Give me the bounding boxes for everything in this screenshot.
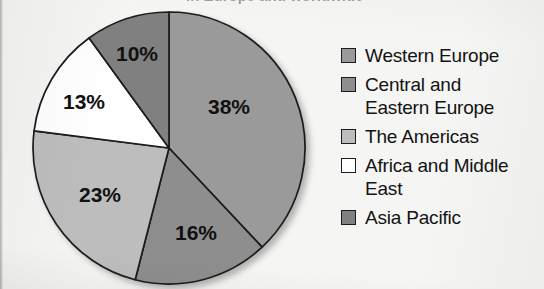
legend-item-label: Western Europe [365, 44, 499, 67]
legend-item-label: Central and Eastern Europe [365, 73, 494, 119]
chart-title-text: in Europe and worldwide [186, 0, 362, 3]
legend-item-label: Africa and Middle East [365, 154, 508, 200]
legend-swatch-icon [341, 129, 356, 144]
legend-swatch-icon [341, 210, 356, 225]
pie-slice-label: 23% [79, 183, 121, 206]
legend-item-label: The Americas [365, 125, 479, 148]
pie-slice-label: 10% [116, 42, 158, 65]
legend-swatch-icon [341, 77, 356, 92]
pie-chart-figure: in Europe and worldwide [0, 0, 544, 289]
legend-swatch-icon [341, 48, 356, 63]
scan-edge-artifact [0, 0, 3, 289]
legend-item[interactable]: Asia Pacific [341, 206, 544, 229]
legend-item[interactable]: Western Europe [341, 44, 544, 67]
pie-slice-label: 16% [175, 221, 217, 244]
legend-swatch-icon [341, 158, 356, 173]
legend-item-label: Asia Pacific [365, 206, 461, 229]
legend-item[interactable]: Africa and Middle East [341, 154, 544, 200]
pie-slices [33, 12, 305, 284]
pie-drop-shadow [33, 12, 305, 284]
pie-slice-label: 38% [208, 95, 250, 118]
pie-slice-label: 13% [63, 90, 105, 113]
chart-legend: Western EuropeCentral and Eastern Europe… [341, 44, 544, 235]
pie-svg: 38%16%23%13%10% [0, 0, 340, 289]
pie-plot-area: 38%16%23%13%10% [0, 0, 340, 289]
cutoff-chart-title: in Europe and worldwide [186, 0, 362, 4]
legend-item[interactable]: The Americas [341, 125, 544, 148]
legend-item[interactable]: Central and Eastern Europe [341, 73, 544, 119]
